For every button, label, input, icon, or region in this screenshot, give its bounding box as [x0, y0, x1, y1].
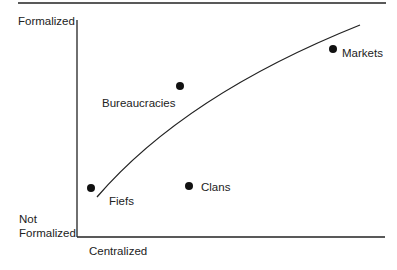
- x-axis-label: Centralized: [89, 244, 147, 258]
- y-axis-top-label: Formalized: [18, 14, 75, 28]
- point-bureaucracies: [176, 82, 184, 90]
- label-fiefs: Fiefs: [109, 194, 134, 208]
- label-markets: Markets: [342, 46, 383, 60]
- y-axis-bottom-label-line2: Formalized: [19, 226, 76, 240]
- trend-curve: [97, 25, 360, 197]
- point-markets: [329, 45, 337, 53]
- label-clans: Clans: [201, 180, 230, 194]
- point-fiefs: [87, 184, 95, 192]
- label-bureaucracies: Bureaucracies: [102, 96, 176, 110]
- point-clans: [185, 182, 193, 190]
- y-axis-bottom-label-line1: Not: [19, 212, 37, 226]
